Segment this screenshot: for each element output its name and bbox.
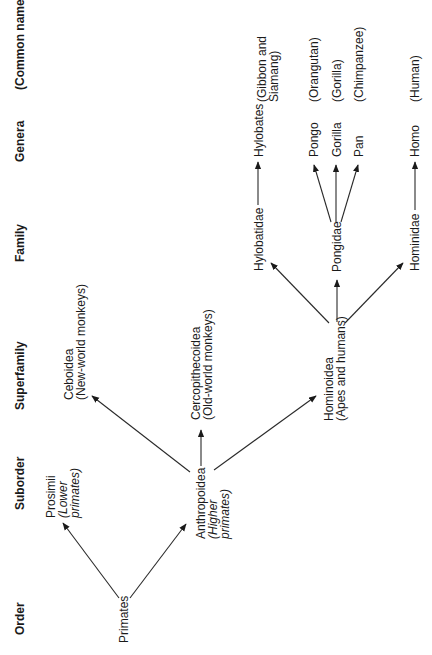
common-name-line: (Human) xyxy=(408,55,422,102)
node-label: Pan xyxy=(352,136,366,157)
node-label: Primates xyxy=(117,596,131,643)
node-sublabel: primates) xyxy=(68,468,82,519)
edge-pongidae-pongo xyxy=(314,165,331,222)
common-name-human: (Human) xyxy=(408,55,422,102)
edges xyxy=(63,162,415,598)
node-sublabel: primates) xyxy=(218,489,232,540)
node-label: Hylobatidae xyxy=(252,207,266,271)
common-name-line: (Chimpanzee) xyxy=(352,27,366,102)
node-label: Hylobates xyxy=(252,104,266,157)
node-primates: Primates xyxy=(117,596,131,643)
header-genera: Genera xyxy=(13,120,27,162)
node-sublabel: (New-world monkeys) xyxy=(74,284,88,400)
node-hominidae: Hominidae xyxy=(408,213,422,271)
common-name-gorilla: (Gorilla) xyxy=(330,59,344,102)
column-headers: Order Suborder Superfamily Family Genera… xyxy=(13,0,27,635)
node-label: Hominidae xyxy=(408,213,422,271)
common-name-orangutan: (Orangutan) xyxy=(307,37,321,102)
node-label: Homo xyxy=(408,125,422,157)
node-anthropoidea: Anthropoidea (Higher primates) xyxy=(194,467,232,540)
common-name-line: (Orangutan) xyxy=(307,37,321,102)
node-hominoidea: Hominoidea (Apes and humans) xyxy=(322,316,348,421)
node-cercopithecoidea: Cercopithecoidea (Old-world monkeys) xyxy=(189,309,215,420)
node-label: Gorilla xyxy=(330,122,344,157)
node-pan: Pan xyxy=(352,136,366,157)
edge-anthropoidea-ceboidea xyxy=(92,396,190,472)
node-label: Pongo xyxy=(307,122,321,157)
edge-hominoidea-hylobatidae xyxy=(271,263,329,323)
common-name-line: Siamang) xyxy=(267,51,281,102)
common-name-line: (Gorilla) xyxy=(330,59,344,102)
node-sublabel: (Old-world monkeys) xyxy=(201,309,215,420)
node-pongo: Pongo xyxy=(307,122,321,157)
primate-classification-diagram: Order Suborder Superfamily Family Genera… xyxy=(0,0,432,655)
node-label: Pongidae xyxy=(330,221,344,272)
edge-anthropoidea-hominoidea xyxy=(214,396,316,470)
node-sublabel: (Apes and humans) xyxy=(334,316,348,421)
header-family: Family xyxy=(13,224,27,262)
edge-primates-anthropoidea xyxy=(130,524,186,598)
header-superfamily: Superfamily xyxy=(13,341,27,410)
edge-hominoidea-hominidae xyxy=(345,263,403,323)
edge-pongidae-pan xyxy=(341,165,358,222)
node-pongidae: Pongidae xyxy=(330,221,344,272)
edge-primates-prosimii xyxy=(63,523,119,598)
common-name-chimpanzee: (Chimpanzee) xyxy=(352,27,366,102)
node-hylobatidae: Hylobatidae xyxy=(252,207,266,271)
header-order: Order xyxy=(13,602,27,635)
node-hylobates: Hylobates xyxy=(252,104,266,157)
node-gorilla: Gorilla xyxy=(330,122,344,157)
node-homo: Homo xyxy=(408,125,422,157)
header-common-name: (Common name) xyxy=(13,0,27,90)
common-name-gibbon: (Gibbon and Siamang) xyxy=(255,36,281,102)
header-suborder: Suborder xyxy=(13,456,27,510)
node-prosimii: Prosimii (Lower primates) xyxy=(44,468,82,519)
node-ceboidea: Ceboidea (New-world monkeys) xyxy=(62,284,88,400)
